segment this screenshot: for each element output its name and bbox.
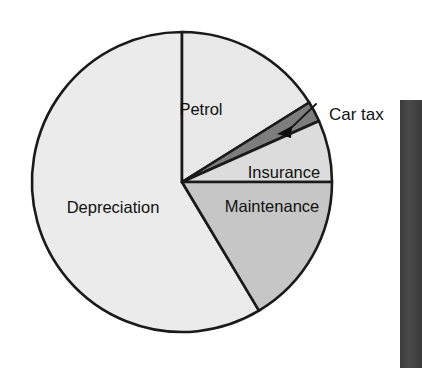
scan-edge-bar xyxy=(400,100,422,368)
pie-chart-figure: Petrol Insurance Maintenance Depreciatio… xyxy=(0,0,422,368)
pie-label-depreciation: Depreciation xyxy=(67,198,160,216)
pie-label-insurance: Insurance xyxy=(248,163,320,181)
pie-label-petrol: Petrol xyxy=(179,100,222,118)
pie-label-car-tax: Car tax xyxy=(329,105,384,124)
pie-chart-canvas: Petrol Insurance Maintenance Depreciatio… xyxy=(0,0,422,368)
pie-label-maintenance: Maintenance xyxy=(225,197,319,215)
